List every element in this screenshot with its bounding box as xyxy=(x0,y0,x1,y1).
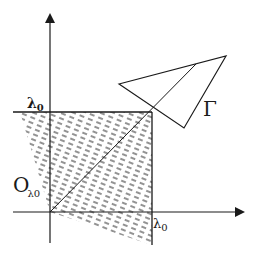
x-tick-label-lambda0: λ0 xyxy=(153,216,168,233)
shaded-region-o-lambda0 xyxy=(20,112,152,245)
gamma-label: Γ xyxy=(203,97,217,121)
diagram-canvas: λ0 λ0 Oλ0 Γ xyxy=(0,0,254,254)
origin-label-o-lambda0: Oλ0 xyxy=(13,173,40,199)
y-tick-label-lambda0: λ0 xyxy=(27,95,44,113)
